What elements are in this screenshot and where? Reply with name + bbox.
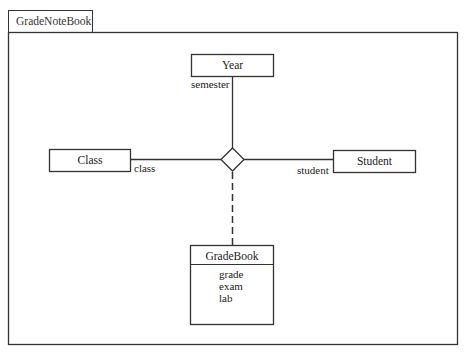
gradebook-attribute-lab: lab: [219, 292, 232, 304]
class-name-student: Student: [333, 154, 416, 168]
gradebook-attribute-exam: exam: [219, 280, 243, 292]
role-label-student: student: [297, 164, 329, 176]
class-name-gradebook: GradeBook: [190, 249, 274, 263]
nary-association-diamond[interactable]: [221, 148, 244, 171]
package-name: GradeNoteBook: [16, 14, 91, 28]
class-name-year: Year: [191, 58, 274, 72]
class-name-class: Class: [49, 153, 131, 167]
role-label-class: class: [134, 162, 155, 174]
gradebook-attribute-grade: grade: [219, 268, 243, 280]
role-label-semester: semester: [191, 78, 229, 90]
